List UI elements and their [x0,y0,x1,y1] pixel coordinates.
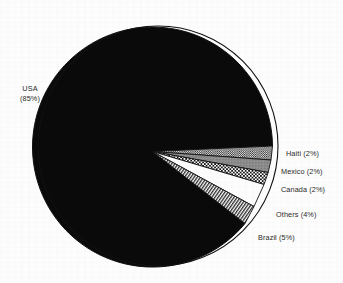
slice-label-others: Others (4%) [276,210,316,220]
slice-label-haiti: Haiti (2%) [286,149,319,159]
slice-label-mexico: Mexico (2%) [281,167,323,177]
slice-label-brazil: Brazil (5%) [258,233,295,243]
pie-slice-usa [33,27,273,267]
slice-label-usa-line1: USA [20,84,40,94]
slice-label-usa-line2: (85%) [20,94,40,104]
slice-label-canada: Canada (2%) [281,185,325,195]
slice-label-usa: USA (85%) [20,84,40,104]
pie-chart-figure: USA (85%) Haiti (2%) Mexico (2%) Canada … [0,0,343,283]
